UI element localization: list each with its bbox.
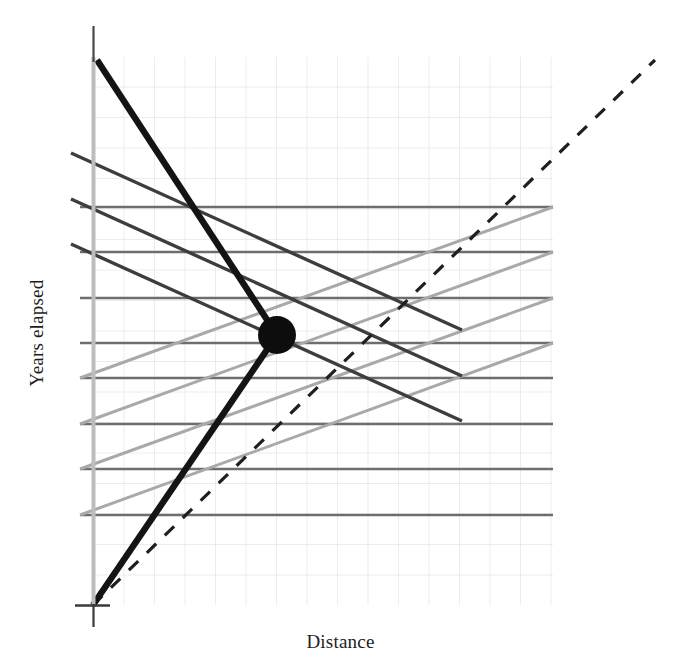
y-axis-label: Years elapsed (26, 238, 48, 428)
turnaround-dot (258, 316, 296, 354)
chart-canvas (0, 0, 681, 669)
turnaround-event-marker (258, 316, 296, 354)
x-axis-label: Distance (0, 631, 681, 653)
minor-gridlines (93, 57, 553, 605)
spacetime-diagram-figure: Years elapsed Distance (0, 0, 681, 669)
